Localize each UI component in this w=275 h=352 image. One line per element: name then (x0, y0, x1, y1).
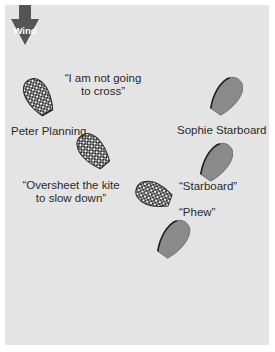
sophie-boat-1 (209, 75, 243, 119)
quote-starboard: “Starboard” (179, 180, 237, 193)
quote-phew: “Phew” (179, 206, 215, 219)
sophie-boat-3 (155, 217, 191, 263)
quote-not-cross-line2: to cross” (57, 85, 149, 98)
diagram-panel: Wind (5, 5, 269, 345)
peter-boat-1 (21, 77, 57, 119)
quote-oversheet-line2: to slow down” (15, 192, 127, 205)
quote-oversheet-kite: “Oversheet the kite to slow down” (15, 179, 127, 205)
quote-not-cross-line1: “I am not going (57, 72, 149, 85)
peter-planning-name: Peter Planning (11, 125, 86, 138)
wind-indicator: Wind (5, 5, 51, 51)
sophie-boat-2 (199, 141, 233, 185)
wind-label: Wind (2, 25, 48, 36)
quote-not-going-to-cross: “I am not going to cross” (57, 72, 149, 98)
peter-boat-3 (133, 179, 177, 211)
sophie-starboard-name: Sophie Starboard (177, 124, 267, 137)
quote-oversheet-line1: “Oversheet the kite (15, 179, 127, 192)
